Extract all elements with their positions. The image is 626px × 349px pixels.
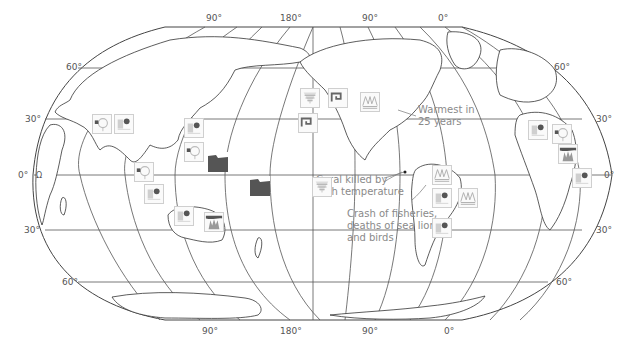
rain-icon (184, 118, 204, 138)
lon-label-top-0: 0° (438, 13, 448, 23)
lat-label-right-30s: 30° (596, 225, 612, 235)
fire-icon (558, 144, 578, 164)
lat-label-left-30n: 30° (25, 114, 41, 124)
world-map (0, 0, 626, 349)
cyclone-icon (298, 113, 318, 133)
landmass-europe (496, 49, 556, 102)
lat-label-right-0: 0° (604, 170, 614, 180)
rain-icon (528, 120, 548, 140)
lon-label-bottom-0: 0° (444, 326, 454, 336)
lat-label-left-0: 0° (18, 170, 28, 180)
landmass-madagascar (60, 197, 66, 215)
annotation-fisheries-line2: deaths of sea lions (347, 220, 441, 232)
annotation-warmest-line2: 25 years (418, 116, 475, 128)
annotation-fisheries: Crash of fisheries, deaths of sea lions … (347, 208, 441, 244)
fire-icon (204, 212, 224, 232)
lat-label-left-30s: 30° (24, 225, 40, 235)
rain-icon (432, 188, 452, 208)
lat-label-right-30n: 30° (596, 114, 612, 124)
lon-label-top-180: 180° (280, 13, 302, 23)
lon-label-bottom-90w: 90° (202, 326, 218, 336)
annotation-warmest-line1: Warmest in (418, 104, 475, 116)
drought-icon (134, 162, 154, 182)
lon-label-top-90e: 90° (362, 13, 378, 23)
rain-icon (432, 218, 452, 238)
annotation-fisheries-line1: Crash of fisheries, (347, 208, 441, 220)
storm-icon (250, 176, 270, 196)
drought-icon (92, 114, 112, 134)
lon-label-top-90w: 90° (206, 13, 222, 23)
map-small-label: Ω (36, 171, 42, 180)
lat-label-left-60s: 60° (62, 277, 78, 287)
coral-icon (300, 88, 320, 108)
storm-icon (208, 152, 228, 172)
drought-icon (552, 124, 572, 144)
lat-label-right-60s: 60° (556, 277, 572, 287)
annotation-fisheries-line3: and birds (347, 232, 441, 244)
annotation-warmest: Warmest in 25 years (418, 104, 475, 128)
cyclone-icon (328, 88, 348, 108)
flood-icon (360, 92, 380, 112)
peru-point (404, 171, 407, 174)
drought-icon (184, 142, 204, 162)
lon-label-bottom-90e: 90° (362, 326, 378, 336)
rain-icon (144, 184, 164, 204)
rain-icon (114, 114, 134, 134)
flood-icon (458, 188, 478, 208)
rain-icon (174, 206, 194, 226)
lat-label-left-60n: 60° (66, 62, 82, 72)
lat-label-right-60n: 60° (554, 62, 570, 72)
rain-icon (572, 168, 592, 188)
lon-label-bottom-180: 180° (280, 326, 302, 336)
flood-icon (432, 165, 452, 185)
coral-icon (312, 177, 332, 197)
